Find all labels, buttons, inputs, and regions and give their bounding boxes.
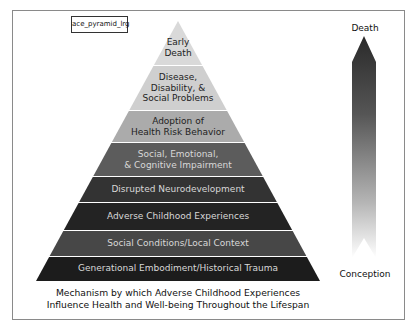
level-label-impairment: Social, Emotional,& Cognitive Impairment: [124, 149, 232, 170]
level-label-social-conditions: Social Conditions/Local Context: [107, 238, 249, 249]
arrow-label-conception: Conception: [340, 269, 391, 279]
level-label-early-death: EarlyDeath: [164, 37, 191, 58]
lifespan-arrow: [352, 36, 376, 258]
level-label-historical-trauma: Generational Embodiment/Historical Traum…: [78, 263, 278, 274]
arrow-label-death: Death: [351, 23, 378, 33]
level-label-health-risk: Adoption ofHealth Risk Behavior: [131, 116, 225, 137]
figure-caption: Mechanism by which Adverse Childhood Exp…: [47, 287, 309, 310]
level-label-disease: Disease,Disability, &Social Problems: [142, 72, 213, 104]
level-label-aces: Adverse Childhood Experiences: [107, 211, 249, 222]
level-label-neurodevelopment: Disrupted Neurodevelopment: [111, 184, 244, 195]
